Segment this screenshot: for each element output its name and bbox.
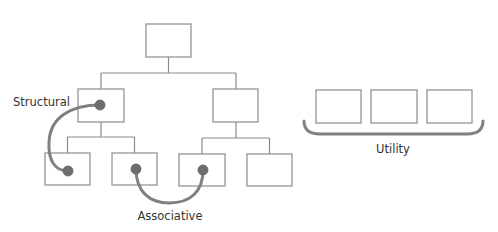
utility-node-1: [316, 90, 361, 123]
utility-label: Utility: [376, 142, 410, 156]
associative-target-dot: [198, 165, 208, 175]
root-node: [146, 24, 191, 57]
utility-node-2: [371, 90, 417, 123]
structural-label: Structural: [13, 95, 70, 109]
leaf-node-4: [247, 154, 292, 186]
mid-right-node: [213, 89, 258, 122]
structural-target-dot: [63, 166, 73, 176]
tree-nodes: [45, 24, 292, 186]
associative-label: Associative: [137, 209, 202, 223]
associative-origin-dot: [131, 164, 141, 174]
utility-group: [304, 90, 483, 134]
diagram-canvas: Structural Associative Utility: [0, 0, 498, 232]
structural-origin-dot: [95, 100, 105, 110]
utility-node-3: [427, 90, 472, 123]
